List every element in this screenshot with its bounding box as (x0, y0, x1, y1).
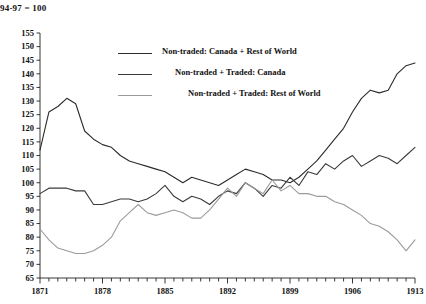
x-tick-label: 1892 (208, 287, 248, 295)
y-tick-label: 70 (12, 260, 34, 268)
legend-swatch-line-icon (118, 53, 152, 54)
legend-label: Non-traded + Traded: Canada (175, 67, 286, 77)
x-tick-label: 1878 (83, 287, 123, 295)
y-tick-label: 120 (12, 124, 34, 132)
legend-label: Non-traded + Traded: Rest of World (188, 88, 321, 98)
y-tick-label: 75 (12, 247, 34, 255)
legend-label: Non-traded: Canada + Rest of World (162, 46, 297, 56)
y-tick-label: 90 (12, 206, 34, 214)
series-line-0 (40, 63, 415, 186)
x-tick-label: 1885 (145, 287, 185, 295)
y-tick-label: 135 (12, 83, 34, 91)
x-tick-label: 1913 (395, 287, 426, 295)
y-tick-label: 100 (12, 179, 34, 187)
chart-container: 94-97 = 100 6570758085909510010511011512… (0, 0, 426, 304)
y-tick-label: 115 (12, 138, 34, 146)
series-line-1 (40, 147, 415, 204)
y-tick-label: 145 (12, 56, 34, 64)
y-tick-label: 85 (12, 219, 34, 227)
x-tick-label: 1899 (270, 287, 310, 295)
y-tick-label: 150 (12, 42, 34, 50)
y-tick-label: 130 (12, 97, 34, 105)
legend-swatch-line-icon (118, 95, 152, 96)
x-tick-label: 1871 (20, 287, 60, 295)
legend-swatch-line-icon (118, 74, 152, 75)
x-tick-label: 1906 (333, 287, 373, 295)
y-tick-label: 140 (12, 70, 34, 78)
y-tick-label: 95 (12, 192, 34, 200)
y-tick-label: 155 (12, 29, 34, 37)
y-tick-label: 80 (12, 233, 34, 241)
y-tick-label: 105 (12, 165, 34, 173)
y-tick-label: 65 (12, 274, 34, 282)
y-tick-label: 125 (12, 110, 34, 118)
y-tick-label: 110 (12, 151, 34, 159)
